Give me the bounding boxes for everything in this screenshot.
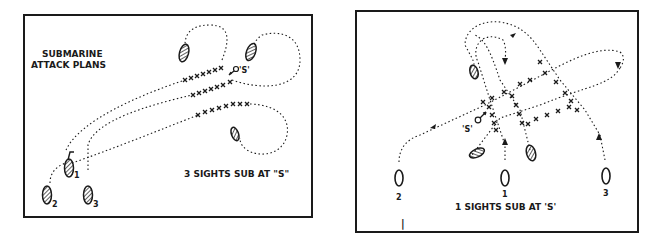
arrow-icon — [480, 112, 486, 118]
right-arrowheads — [430, 33, 621, 145]
ship-1-label: 1 — [502, 190, 508, 199]
ship-3-icon — [602, 168, 610, 184]
right-ships — [395, 64, 610, 186]
ship-2-label: 2 — [52, 200, 58, 209]
sub-position-label: 'S' — [462, 125, 473, 134]
title-line-1: SUBMARINE — [42, 49, 103, 59]
flag-icon — [68, 152, 74, 160]
ship-2-icon — [395, 170, 403, 186]
arrow-icon — [229, 71, 234, 75]
ship-icon — [468, 146, 486, 160]
ship-icon — [229, 126, 240, 142]
attack-plans-drawing: SUBMARINE ATTACK PLANS — [0, 0, 659, 239]
ship-3-label: 3 — [93, 200, 99, 209]
ship-2-icon — [43, 186, 52, 204]
right-caption: 1 SIGHTS SUB AT 'S' — [455, 202, 556, 212]
ship-3-icon — [84, 186, 93, 204]
arrow-icon — [596, 133, 602, 140]
right-submarine: 'S' — [462, 112, 486, 134]
ship-icon — [177, 43, 190, 63]
left-caption: 3 SIGHTS SUB AT "S" — [184, 169, 289, 179]
ship-icon — [244, 42, 259, 62]
ship-icon — [468, 64, 479, 80]
arrow-icon — [502, 58, 508, 65]
arrow-icon — [430, 124, 436, 129]
ship-3-label: 3 — [603, 189, 609, 198]
ship-2-label: 2 — [396, 193, 402, 202]
arrow-icon — [615, 62, 621, 69]
tick-mark: | — [401, 218, 405, 230]
ship-1-label: 1 — [74, 171, 80, 180]
submarine-icon — [475, 117, 481, 123]
left-title: SUBMARINE ATTACK PLANS — [31, 49, 106, 70]
arrow-icon — [510, 33, 516, 38]
ship-1-icon — [65, 159, 74, 177]
right-tracks — [399, 22, 623, 162]
left-submarine: 'S' — [229, 66, 250, 75]
ship-1-icon — [501, 170, 509, 186]
submarine-icon — [234, 67, 239, 72]
sub-position-label: 'S' — [239, 66, 250, 75]
ship-icon — [525, 144, 538, 162]
right-depth-charge-marks — [481, 60, 579, 132]
title-line-2: ATTACK PLANS — [31, 60, 106, 70]
